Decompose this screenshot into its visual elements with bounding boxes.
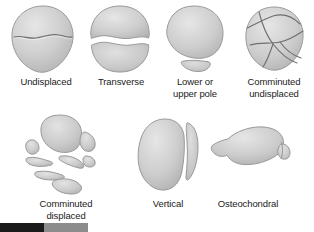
caption-osteochondral: Osteochondral <box>200 198 296 210</box>
caption-transverse: Transverse <box>82 76 160 88</box>
illustration-comminuted-undisplaced <box>240 4 310 74</box>
caption-comminuted-displaced: Comminuted displaced <box>22 198 110 221</box>
caption-lower-or-upper-pole: Lower or upper pole <box>156 76 234 99</box>
caption-undisplaced: Undisplaced <box>0 76 92 88</box>
legend-bar <box>0 223 88 232</box>
illustration-transverse <box>84 4 156 74</box>
pole-bone-icon <box>160 4 230 74</box>
osteochondral-bone-icon <box>206 122 292 182</box>
illustration-comminuted-displaced <box>22 112 110 196</box>
legend-segment-dark <box>0 223 44 232</box>
illustration-undisplaced <box>6 4 80 74</box>
vertical-bone-icon <box>134 116 202 194</box>
patella-fracture-figure: Undisplaced Transverse <box>0 0 314 232</box>
transverse-bone-icon <box>84 4 156 74</box>
legend-segment-gray <box>44 223 88 232</box>
illustration-lower-or-upper-pole <box>160 4 230 74</box>
undisplaced-bone-icon <box>6 4 80 74</box>
illustration-osteochondral <box>206 122 292 182</box>
comminuted-undisplaced-bone-icon <box>240 4 310 74</box>
comminuted-displaced-bone-icon <box>22 112 110 196</box>
caption-vertical: Vertical <box>134 198 202 210</box>
caption-comminuted-undisplaced: Comminuted undisplaced <box>234 76 314 99</box>
illustration-vertical <box>134 116 202 194</box>
